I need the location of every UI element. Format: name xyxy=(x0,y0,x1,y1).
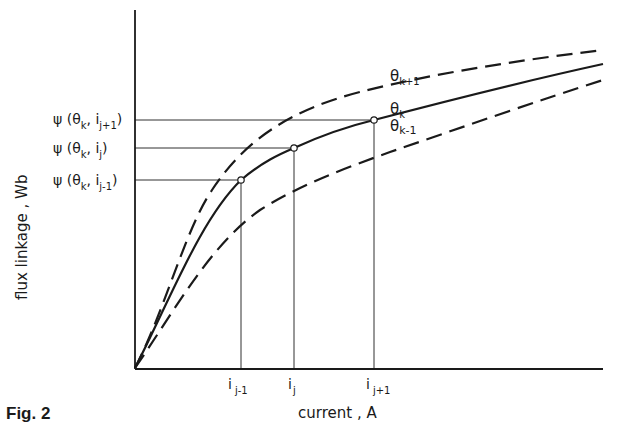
label-theta-k-minus-1: θk-1 xyxy=(390,117,417,137)
x-tick-ij: ij xyxy=(288,376,296,396)
figure-caption: Fig. 2 xyxy=(6,404,50,424)
reference-lines xyxy=(135,120,374,369)
y-tick-labels: ψ (θk, ij+1) ψ (θk, ij) ψ (θk, ij-1) xyxy=(53,111,122,192)
axes xyxy=(135,10,603,369)
x-tick-ij+1: ij+1 xyxy=(366,376,390,396)
curve-theta-k-minus-1 xyxy=(135,80,603,368)
point-ij xyxy=(291,145,297,151)
y-tick-psi-ij-1: ψ (θk, ij-1) xyxy=(53,172,118,192)
point-ij+1 xyxy=(371,117,377,123)
x-tick-labels: ij-1 ij ij+1 xyxy=(228,376,390,396)
x-axis-label: current , A xyxy=(298,404,377,422)
point-ij-1 xyxy=(238,177,244,183)
curve-theta-k xyxy=(135,64,603,368)
curve-theta-k-plus-1 xyxy=(135,50,603,368)
marked-points xyxy=(238,117,377,183)
curve-labels: θk+1 θk θk-1 xyxy=(390,67,420,137)
flux-linkage-diagram: θk+1 θk θk-1 ψ (θk, ij+1) ψ (θk, ij) ψ (… xyxy=(0,0,627,432)
y-tick-psi-ij: ψ (θk, ij) xyxy=(53,140,108,160)
curves xyxy=(135,50,603,368)
y-axis-label: flux linkage , Wb xyxy=(13,175,31,300)
label-theta-k-plus-1: θk+1 xyxy=(390,67,420,87)
y-tick-psi-ij+1: ψ (θk, ij+1) xyxy=(53,111,122,131)
x-tick-ij-1: ij-1 xyxy=(228,376,248,396)
